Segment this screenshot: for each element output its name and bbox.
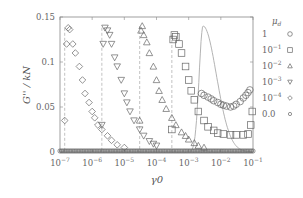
legend: μd110−110−210−310−40.0 <box>262 16 292 119</box>
series-square <box>169 32 256 139</box>
svg-text:10−2: 10−2 <box>262 59 282 71</box>
svg-text:10−5: 10−5 <box>114 156 134 168</box>
series-circle <box>198 87 253 111</box>
svg-text:10−4: 10−4 <box>147 156 167 168</box>
svg-text:0.05: 0.05 <box>36 102 55 112</box>
svg-text:0.1: 0.1 <box>41 57 55 67</box>
svg-text:10−1: 10−1 <box>262 43 282 55</box>
svg-text:10−7: 10−7 <box>50 156 70 168</box>
series-triangle-down <box>99 25 160 149</box>
svg-text:10−3: 10−3 <box>179 156 199 168</box>
svg-text:0: 0 <box>50 147 55 157</box>
svg-text:10−3: 10−3 <box>262 75 282 87</box>
onset-guide-lines <box>65 26 172 152</box>
svg-text:10−1: 10−1 <box>243 156 263 168</box>
x-axis-label: γ0 <box>151 174 164 185</box>
svg-text:0.0: 0.0 <box>262 109 276 119</box>
plot-frame <box>60 17 253 152</box>
svg-text:10−6: 10−6 <box>82 156 102 168</box>
chart: 00.050.10.15 10−710−610−510−410−310−210−… <box>0 0 303 198</box>
svg-text:0.15: 0.15 <box>36 12 55 22</box>
svg-text:10−2: 10−2 <box>211 156 231 168</box>
svg-text:10−4: 10−4 <box>262 91 282 103</box>
y-axis-label: G'' / kN <box>21 65 32 104</box>
svg-text:μd: μd <box>272 16 282 27</box>
svg-text:1: 1 <box>262 29 267 39</box>
series-diamond <box>61 25 127 151</box>
data-points <box>58 23 256 153</box>
